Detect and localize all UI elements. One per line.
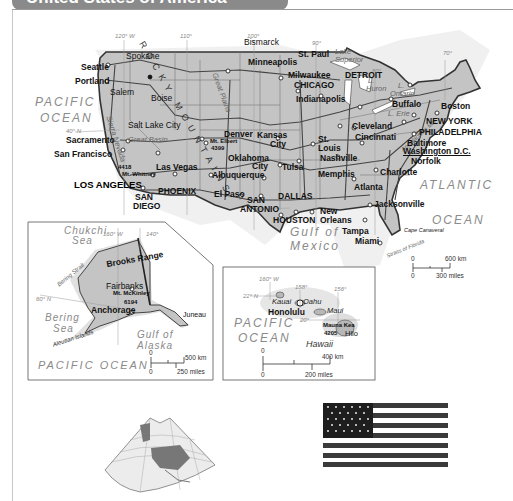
alaska-scale-mi: 250 miles bbox=[177, 369, 205, 376]
graticule-label: 40° N bbox=[66, 128, 81, 134]
us-flag bbox=[323, 403, 448, 467]
city-buffalo: Buffalo bbox=[392, 100, 421, 109]
city-san-diego: DIEGO bbox=[133, 202, 160, 211]
main-scale-km-zero: 0 bbox=[411, 256, 415, 263]
city-las-vegas: Las Vegas bbox=[156, 163, 198, 172]
graticule-label: 160° W bbox=[103, 231, 123, 237]
city-salt-lake-city: Salt Lake City bbox=[128, 121, 180, 130]
city-jacksonville: Jacksonville bbox=[374, 200, 425, 209]
gulf-alaska-label: Gulf of bbox=[137, 330, 173, 340]
hawaii-scale-km: 400 km bbox=[322, 354, 343, 361]
city-portland: Portland bbox=[75, 77, 109, 86]
city-el-paso: El Paso bbox=[214, 190, 245, 199]
lake-superior-label: Superior bbox=[335, 56, 363, 64]
alaska-scale-km-zero: 0 bbox=[149, 350, 153, 357]
city-milwaukee: Milwaukee bbox=[288, 71, 331, 80]
city-tulsa: Tulsa bbox=[282, 163, 304, 172]
hawaii-ocean-label-2: OCEAN bbox=[238, 332, 291, 344]
city-denver: Denver bbox=[224, 130, 253, 139]
island-hawaii: Hawaii bbox=[306, 340, 333, 349]
city-boise: Boise bbox=[151, 94, 172, 103]
city-boston: Boston bbox=[441, 102, 470, 111]
city-new-york: NEW YORK bbox=[426, 117, 473, 126]
graticule-label: 110° bbox=[180, 33, 192, 39]
mt-whitney-label: Mt. Whitney bbox=[122, 171, 156, 177]
lake-ontario-label: Ontario bbox=[390, 90, 415, 98]
city-san-antonio: ANTONIO bbox=[240, 205, 279, 214]
graticule-label: 70° bbox=[443, 50, 452, 56]
alaska-pacific-ocean-label: PACIFIC OCEAN bbox=[38, 360, 149, 371]
city-philadelphia: PHILADELPHIA bbox=[419, 128, 482, 137]
lake-huron-label: Huron bbox=[366, 85, 386, 93]
city-san-francisco: San Francisco bbox=[54, 150, 112, 159]
hawaii-scale-mi-zero: 0 bbox=[261, 372, 265, 379]
gulf-mexico-label-2: Mexico bbox=[290, 240, 340, 252]
hawaii-scale-km-zero: 0 bbox=[261, 348, 265, 355]
bering-sea-label: Sea bbox=[53, 324, 74, 334]
city-atlanta: Atlanta bbox=[354, 183, 383, 192]
atlantic-ocean-label-1: ATLANTIC bbox=[420, 179, 493, 191]
great-basin-label: Great Basin bbox=[128, 136, 168, 144]
mauna-kea-elevation: 4205 bbox=[324, 330, 337, 336]
city-st-louis: Louis bbox=[318, 144, 341, 153]
city-oklahoma-city: City bbox=[252, 162, 268, 171]
pacific-ocean-label-1: PACIFIC bbox=[35, 96, 95, 108]
city-chicago: CHICAGO bbox=[294, 81, 334, 90]
city-juneau: Juneau bbox=[183, 311, 206, 318]
graticule-label: 20° bbox=[300, 317, 309, 323]
island-oahu: Oahu bbox=[303, 298, 321, 306]
city-cincinnati: Cincinnati bbox=[355, 133, 396, 142]
city-houston: HOUSTON bbox=[273, 216, 315, 225]
atlantic-ocean-label-2: OCEAN bbox=[432, 214, 485, 226]
island-maui: Maui bbox=[327, 307, 343, 315]
city-norfolk: Norfolk bbox=[411, 157, 441, 166]
city-phoenix: PHOENIX bbox=[158, 187, 196, 196]
graticule-label: 140° bbox=[146, 231, 158, 237]
city-st-paul: St. Paul bbox=[298, 50, 329, 59]
city-detroit: DETROIT bbox=[345, 71, 382, 80]
city-sacramento: Sacramento bbox=[66, 136, 115, 145]
bering-sea-label: Bering bbox=[45, 313, 80, 323]
lake-erie-label: L. Erie bbox=[388, 110, 410, 118]
graticule-label: 160° W bbox=[259, 276, 279, 282]
city-minneapolis: Minneapolis bbox=[248, 58, 297, 67]
alaska-scale-km: 500 km bbox=[185, 355, 206, 362]
city-albuquerque: Albuquerque bbox=[212, 171, 264, 180]
city-new-orleans: Orleans bbox=[320, 216, 352, 225]
city-nashville: Nashville bbox=[320, 154, 357, 163]
city-dallas: DALLAS bbox=[278, 192, 312, 201]
hawaii-scale-mi: 200 miles bbox=[305, 372, 333, 379]
city-spokane: Spokane bbox=[126, 52, 160, 61]
island-kauai: Kauai bbox=[272, 298, 291, 306]
chukchi-sea-label: Sea bbox=[72, 236, 93, 246]
city-kansas-city: City bbox=[270, 140, 286, 149]
city-indianapolis: Indianapolis bbox=[296, 95, 346, 104]
city-salem: Salem bbox=[110, 88, 134, 97]
city-anchorage: Anchorage bbox=[91, 306, 135, 315]
city-seattle: Seattle bbox=[81, 63, 109, 72]
hawaii-pacific-label-1: PACIFIC bbox=[234, 317, 294, 329]
graticule-label: 158° bbox=[295, 284, 307, 290]
cape-canaveral-label: Cape Canaveral bbox=[404, 228, 444, 234]
mauna-kea-label: Mauna Kea bbox=[323, 322, 355, 328]
mt-elbert-elevation: 4399 bbox=[211, 145, 224, 151]
graticule-label: 90° bbox=[312, 40, 321, 46]
main-scale-mi: 300 miles bbox=[436, 273, 464, 280]
city-hilo: Hilo bbox=[345, 330, 358, 338]
gulf-alaska-label: Alaska bbox=[137, 341, 173, 351]
city-washington-dc: Washington D.C. bbox=[403, 147, 471, 156]
city-los-angeles: LOS ANGELES bbox=[74, 180, 142, 190]
mt-whitney-elevation: 4418 bbox=[118, 164, 131, 170]
graticule-label: 22° N bbox=[243, 293, 258, 299]
graticule-label: 60° N bbox=[36, 296, 51, 302]
gulf-mexico-label-1: Gulf of bbox=[290, 226, 339, 238]
city-tampa: Tampa bbox=[342, 227, 369, 236]
graticule-label: 120° W bbox=[115, 33, 135, 39]
city-bismarck: Bismarck bbox=[244, 38, 279, 47]
city-cleveland: Cleveland bbox=[352, 122, 392, 131]
alaska-scale-mi-zero: 0 bbox=[149, 369, 153, 376]
city-miami: Miami bbox=[355, 237, 379, 246]
graticule-label: 156° bbox=[334, 286, 346, 292]
city-charlotte: Charlotte bbox=[380, 168, 417, 177]
city-memphis: Memphis bbox=[318, 170, 355, 179]
